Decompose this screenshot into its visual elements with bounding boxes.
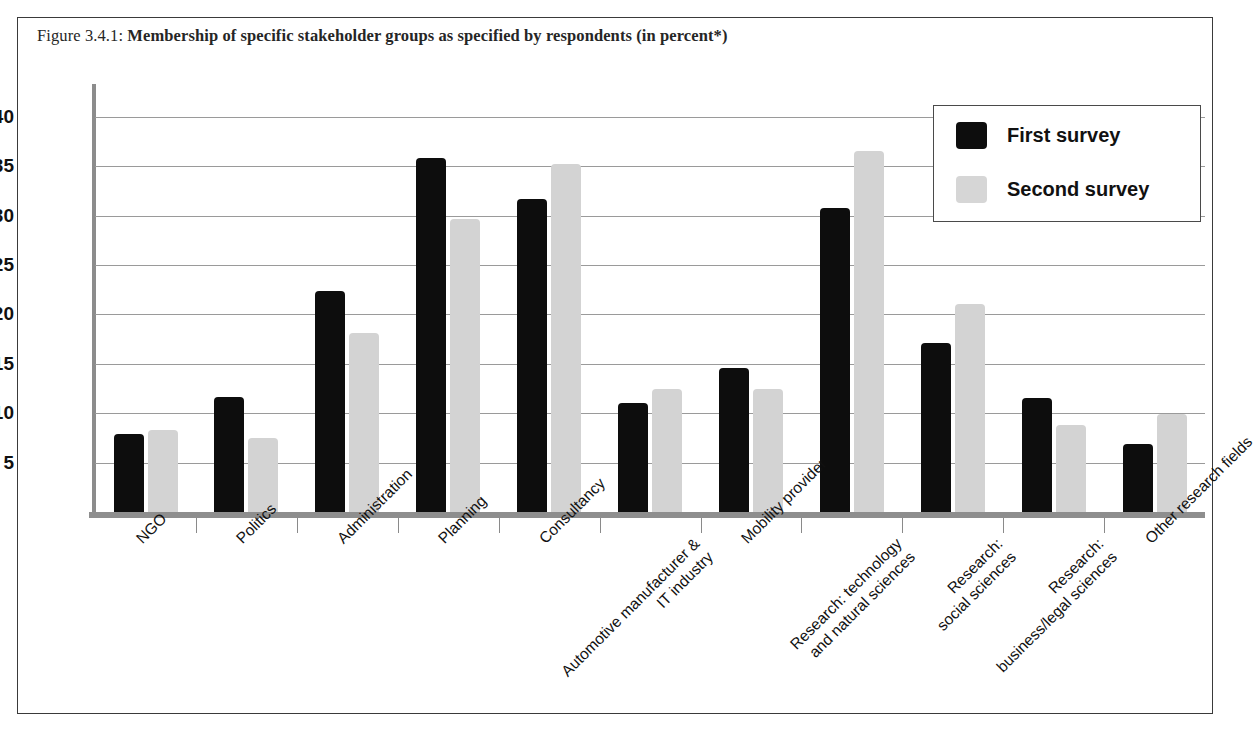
x-axis-tick-mark [600, 518, 601, 533]
legend-item-second-survey: Second survey [956, 176, 1149, 203]
x-axis-category-label: Research:social sciences [919, 534, 1020, 635]
figure-caption-text: Membership of specific stakeholder group… [127, 26, 727, 45]
x-axis-tick-mark [499, 518, 500, 533]
y-axis-tick-label: 35 [0, 155, 14, 177]
bar-first-survey [1022, 398, 1052, 512]
bar-first-survey [517, 199, 547, 512]
x-axis-label-line: IT industry [571, 547, 717, 693]
bar-first-survey [416, 158, 446, 512]
x-axis-label-line: Research: technology [786, 534, 905, 653]
y-axis-tick-label: 15 [0, 353, 14, 375]
figure-caption-prefix: Figure 3.4.1: [37, 26, 127, 45]
y-axis-tick-label: 25 [0, 254, 14, 276]
x-axis-category-label: Automotive manufacturer &IT industry [557, 534, 717, 694]
bar-second-survey [148, 430, 178, 512]
x-axis-tick-mark [701, 518, 702, 533]
bar-second-survey [652, 389, 682, 512]
gridline [95, 314, 1205, 315]
bar-first-survey [618, 403, 648, 512]
bar-first-survey [114, 434, 144, 512]
figure-caption: Figure 3.4.1: Membership of specific sta… [37, 26, 728, 46]
x-axis-category-label: Mobility provider [737, 454, 830, 547]
bar-first-survey [719, 368, 749, 512]
x-axis-tick-mark [297, 518, 298, 533]
legend-swatch-icon [956, 176, 987, 203]
y-axis-tick-label: 10 [0, 402, 14, 424]
y-axis-tick-label: 5 [0, 452, 14, 474]
y-axis-tick-label: 30 [0, 205, 14, 227]
x-axis-tick-mark [398, 518, 399, 533]
chart-plot-area: 510152025303540 NGOPoliticsAdministratio… [95, 87, 1205, 512]
gridline [95, 364, 1205, 365]
legend-swatch-icon [956, 122, 987, 149]
x-axis-tick-mark [196, 518, 197, 533]
x-axis-tick-mark [1104, 518, 1105, 533]
gridline [95, 265, 1205, 266]
bar-second-survey [854, 151, 884, 512]
legend-label: Second survey [1007, 178, 1149, 201]
y-axis-tick-label: 40 [0, 106, 14, 128]
bar-second-survey [1056, 425, 1086, 512]
y-axis-tick-label: 20 [0, 303, 14, 325]
bar-first-survey [921, 343, 951, 512]
x-axis-label-line: Automotive manufacturer & [557, 534, 703, 680]
bar-first-survey [214, 397, 244, 512]
x-axis-category-label: Research: technologyand natural sciences [786, 534, 919, 667]
bar-first-survey [1123, 444, 1153, 512]
x-axis-tick-mark [902, 518, 903, 533]
bar-first-survey [315, 291, 345, 512]
bar-second-survey [450, 219, 480, 513]
bar-second-survey [955, 304, 985, 513]
x-axis-tick-mark [801, 518, 802, 533]
legend-label: First survey [1007, 124, 1120, 147]
legend-item-first-survey: First survey [956, 122, 1120, 149]
x-axis-label-line: Mobility provider [737, 454, 830, 547]
x-axis-tick-mark [1003, 518, 1004, 533]
figure-frame: Figure 3.4.1: Membership of specific sta… [17, 17, 1213, 714]
y-axis-line [92, 84, 96, 515]
chart-legend: First survey Second survey [933, 105, 1201, 222]
bar-second-survey [349, 333, 379, 512]
bar-second-survey [551, 164, 581, 512]
